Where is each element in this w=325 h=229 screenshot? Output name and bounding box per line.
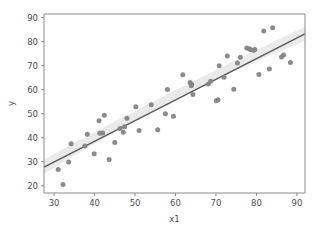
- y-tick-label: 60: [27, 85, 38, 95]
- data-point: [217, 63, 222, 68]
- data-point: [82, 143, 87, 148]
- data-point: [133, 104, 138, 109]
- x-tick-label: 90: [291, 198, 302, 208]
- x-tick-label: 50: [130, 198, 141, 208]
- data-point: [56, 167, 61, 172]
- data-point: [267, 67, 272, 72]
- data-point: [124, 116, 129, 121]
- data-point: [208, 79, 213, 84]
- data-point: [69, 141, 74, 146]
- x-tick-group: 30405060708090: [49, 193, 303, 208]
- x-tick-label: 70: [211, 198, 222, 208]
- data-point: [252, 47, 257, 52]
- y-tick-label: 20: [27, 181, 38, 191]
- data-point: [235, 61, 240, 66]
- data-point: [137, 128, 142, 133]
- data-points-group: [56, 25, 293, 187]
- data-point: [66, 160, 71, 165]
- data-point: [85, 132, 90, 137]
- y-tick-label: 40: [27, 133, 38, 143]
- x-tick-label: 60: [170, 198, 181, 208]
- data-point: [288, 60, 293, 65]
- data-point: [149, 102, 154, 107]
- y-tick-label: 90: [27, 13, 38, 23]
- data-point: [256, 72, 261, 77]
- axes-spines: [44, 14, 305, 193]
- x-tick-label: 30: [49, 198, 60, 208]
- data-point: [281, 53, 286, 58]
- data-point: [112, 140, 117, 145]
- y-tick-label: 30: [27, 157, 38, 167]
- data-point: [155, 127, 160, 132]
- data-point: [238, 55, 243, 60]
- x-tick-label: 80: [251, 198, 262, 208]
- axes-group: [44, 14, 305, 193]
- data-point: [97, 118, 102, 123]
- data-point: [102, 113, 107, 118]
- data-point: [122, 124, 127, 129]
- data-point: [190, 92, 195, 97]
- data-point: [189, 82, 194, 87]
- data-point: [163, 111, 168, 116]
- y-tick-group: 2030405060708090: [27, 13, 44, 191]
- y-axis-title: y: [6, 101, 16, 106]
- y-tick-label: 80: [27, 37, 38, 47]
- scatter-plot: 30405060708090 2030405060708090 x1 y: [0, 0, 325, 229]
- data-point: [231, 87, 236, 92]
- data-point: [165, 87, 170, 92]
- data-point: [100, 130, 105, 135]
- data-point: [171, 114, 176, 119]
- data-point: [222, 75, 227, 80]
- data-point: [107, 157, 112, 162]
- x-tick-label: 40: [89, 198, 100, 208]
- data-point: [180, 72, 185, 77]
- data-point: [92, 151, 97, 156]
- y-tick-label: 70: [27, 61, 38, 71]
- data-point: [225, 54, 230, 59]
- y-tick-label: 50: [27, 109, 38, 119]
- data-point: [261, 29, 266, 34]
- data-point: [270, 25, 275, 30]
- x-axis-title: x1: [169, 214, 179, 224]
- data-point: [61, 182, 66, 187]
- data-point: [121, 130, 126, 135]
- figure-container: 30405060708090 2030405060708090 x1 y: [0, 0, 325, 229]
- data-point: [216, 97, 221, 102]
